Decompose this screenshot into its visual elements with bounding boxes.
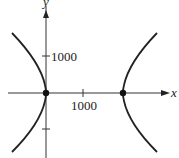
x-axis-arrow-icon [161, 90, 170, 96]
vertex-point-right [120, 90, 126, 96]
vertex-point-left [43, 90, 49, 96]
y-tick-label: 1000 [51, 49, 77, 64]
hyperbola-chart: y x 1000 1000 [0, 0, 179, 158]
x-tick-label: 1000 [71, 98, 97, 113]
chart-canvas: y x 1000 1000 [0, 0, 179, 158]
y-axis-label: y [41, 0, 49, 9]
y-axis-arrow-icon [43, 10, 49, 18]
x-axis-label: x [170, 85, 177, 100]
